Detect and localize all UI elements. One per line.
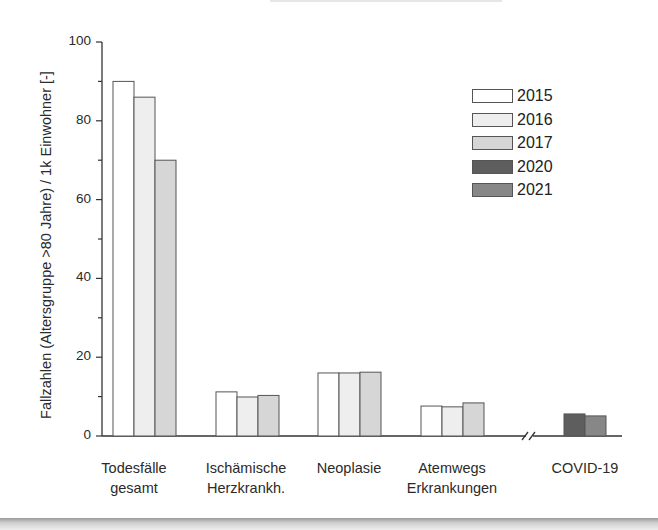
legend-item-2015: 2015 [472,87,553,105]
legend-label: 2016 [517,111,553,129]
bar-2021 [585,416,606,436]
legend-item-2017: 2017 [472,134,553,152]
y-tick-label: 20 [61,348,91,363]
legend-item-2020: 2020 [472,158,553,176]
bar-2015 [216,392,237,436]
bar-2017 [463,403,484,436]
y-tick-label: 100 [61,33,91,48]
bar-2015 [421,406,442,436]
y-tick-label: 40 [61,269,91,284]
y-tick-label: 0 [61,427,91,442]
y-tick-label: 80 [61,112,91,127]
bar-2017 [258,395,279,436]
x-category-label: IschämischeHerzkrankh. [186,458,306,498]
legend-swatch [472,183,513,197]
legend-item-2016: 2016 [472,111,553,129]
bar-2015 [318,373,339,436]
bar-2016 [134,97,155,436]
x-category-label: Neoplasie [289,458,409,478]
bar-2016 [237,397,258,436]
bar-2020 [564,414,585,436]
bottom-edge-bar [0,518,658,530]
x-category-label: AtemwegsErkrankungen [392,458,512,498]
y-tick-label: 60 [61,191,91,206]
bar-2017 [155,160,176,436]
legend-swatch [472,136,513,150]
bar-2016 [442,407,463,436]
x-category-label: COVID-19 [525,458,645,478]
x-category-label: Todesfällegesamt [74,458,194,498]
bar-2015 [113,81,134,436]
bar-chart-plot [0,0,658,530]
legend-label: 2021 [517,181,553,199]
bar-2016 [339,373,360,436]
legend-swatch [472,89,513,103]
legend-swatch [472,113,513,127]
bar-2017 [360,372,381,436]
legend-label: 2015 [517,87,553,105]
legend-item-2021: 2021 [472,181,553,199]
y-axis-label: Fallzahlen (Altersgruppe >80 Jahre) / 1k… [38,71,54,419]
legend-swatch [472,160,513,174]
legend-label: 2017 [517,134,553,152]
legend-label: 2020 [517,158,553,176]
